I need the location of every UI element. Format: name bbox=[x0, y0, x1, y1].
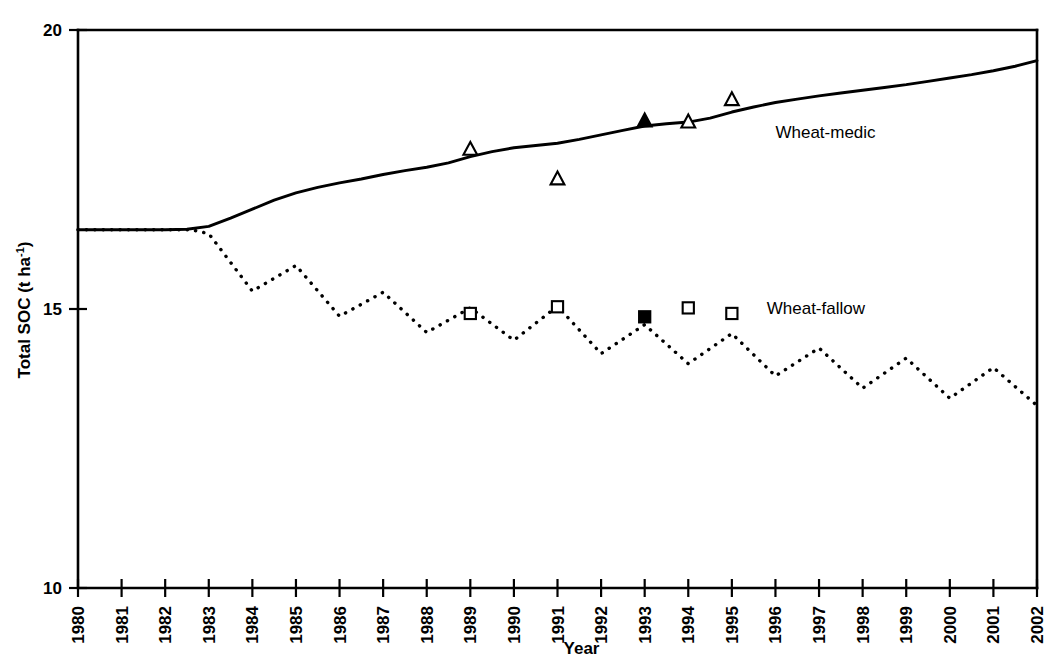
chart-series bbox=[78, 61, 1037, 406]
x-axis-title: Year bbox=[564, 639, 600, 658]
x-tick-label: 2000 bbox=[941, 606, 960, 644]
x-tick-label: 1994 bbox=[679, 605, 698, 643]
chart-container: 1015201980198119821983198419851986198719… bbox=[0, 0, 1063, 670]
data-marker-square bbox=[552, 301, 563, 312]
x-tick-label: 1983 bbox=[200, 606, 219, 644]
series-label-wheat-fallow: Wheat-fallow bbox=[767, 299, 866, 318]
x-tick-label: 1998 bbox=[854, 606, 873, 644]
series-line-wheat-medic bbox=[78, 61, 1037, 230]
x-tick-label: 1995 bbox=[723, 606, 742, 644]
x-tick-label: 1997 bbox=[810, 606, 829, 644]
x-tick-label: 1993 bbox=[636, 606, 655, 644]
x-tick-label: 1982 bbox=[156, 606, 175, 644]
data-marker-square bbox=[465, 308, 476, 319]
x-tick-label: 1985 bbox=[287, 606, 306, 644]
x-tick-label: 1981 bbox=[113, 606, 132, 644]
x-tick-label: 1988 bbox=[418, 606, 437, 644]
x-tick-label: 1999 bbox=[897, 606, 916, 644]
x-tick-label: 2001 bbox=[984, 606, 1003, 644]
chart-axes bbox=[69, 30, 1037, 597]
series-label-wheat-medic: Wheat-medic bbox=[775, 123, 876, 142]
series-line-wheat-fallow bbox=[78, 230, 1037, 406]
chart-markers bbox=[463, 92, 738, 322]
y-tick-label: 15 bbox=[43, 300, 62, 319]
data-marker-square bbox=[726, 308, 737, 319]
data-marker-square bbox=[683, 302, 694, 313]
x-tick-label: 1987 bbox=[374, 606, 393, 644]
x-tick-label: 1996 bbox=[766, 606, 785, 644]
data-marker-triangle bbox=[551, 171, 565, 184]
y-axis-title: Total SOC (t ha-1) bbox=[14, 242, 34, 379]
data-marker-square bbox=[639, 311, 650, 322]
data-marker-triangle bbox=[725, 92, 739, 105]
soc-line-chart: 1015201980198119821983198419851986198719… bbox=[0, 0, 1063, 670]
x-tick-label: 1984 bbox=[243, 605, 262, 643]
x-tick-label: 1980 bbox=[69, 606, 88, 644]
x-tick-label: 1989 bbox=[461, 606, 480, 644]
x-tick-label: 2002 bbox=[1028, 606, 1047, 644]
y-tick-label: 10 bbox=[43, 579, 62, 598]
data-marker-triangle bbox=[638, 113, 652, 126]
chart-text-labels: 1015201980198119821983198419851986198719… bbox=[14, 21, 1047, 658]
data-marker-triangle bbox=[463, 142, 477, 155]
y-tick-label: 20 bbox=[43, 21, 62, 40]
x-tick-label: 1990 bbox=[505, 606, 524, 644]
x-tick-label: 1986 bbox=[331, 606, 350, 644]
